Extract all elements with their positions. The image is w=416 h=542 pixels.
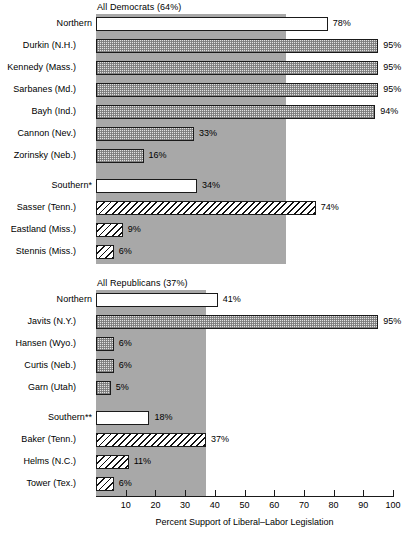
bar-value-g0s0-r4: 33% — [199, 128, 217, 139]
row-label-g1s0-r3: Garn (Utah) — [2, 382, 76, 393]
bar-g0s0-r0 — [96, 39, 378, 53]
x-axis-tick-label-30: 30 — [170, 500, 200, 511]
bar-g0s1-r2 — [96, 245, 114, 259]
row-label-g1s0-r2: Curtis (Neb.) — [2, 360, 76, 371]
bar-g0s0-r4 — [96, 127, 194, 141]
row-label-g0s0-r3: Bayh (Ind.) — [2, 106, 76, 117]
bar-g0s1-r1 — [96, 223, 123, 237]
bar-value-g0s0-r5: 16% — [149, 150, 167, 161]
bar-value-g1s1-r0: 37% — [211, 434, 229, 445]
bar-value-g0s0-r3: 94% — [380, 106, 398, 117]
bar-g1s1-r0 — [96, 433, 206, 447]
bar-value-g0s1-r0: 74% — [321, 202, 339, 213]
x-axis-tick-90 — [363, 490, 364, 496]
group-header-1: All Republicans (37%) — [97, 278, 188, 289]
x-axis-tick-label-20: 20 — [140, 500, 170, 511]
row-label-g1s0-summary: Northern — [2, 294, 92, 305]
row-label-g0s1-r2: Stennis (Miss.) — [2, 246, 76, 257]
x-axis-tick-label-10: 10 — [111, 500, 141, 511]
bar-value-g0s0-summary: 78% — [333, 18, 351, 29]
bar-value-g0s1-r2: 6% — [119, 246, 132, 257]
x-axis-tick-label-50: 50 — [230, 500, 260, 511]
bar-g1s0-r3 — [96, 381, 111, 395]
x-axis-tick-label-70: 70 — [289, 500, 319, 511]
x-axis-tick-80 — [334, 490, 335, 496]
x-axis-tick-70 — [304, 490, 305, 496]
bar-value-g0s0-r1: 95% — [383, 62, 401, 73]
bar-value-g1s1-r2: 6% — [119, 478, 132, 489]
bar-value-g0s0-r2: 95% — [383, 84, 401, 95]
bar-g1s0-summary — [96, 293, 218, 307]
bar-g1s0-r0 — [96, 315, 378, 329]
bar-g1s0-r1 — [96, 337, 114, 351]
bar-g0s0-r2 — [96, 83, 378, 97]
x-axis-title: Percent Support of Liberal–Labor Legisla… — [96, 517, 393, 528]
bar-g0s1-r0 — [96, 201, 316, 215]
x-axis-line — [96, 496, 394, 497]
row-label-g0s0-r1: Kennedy (Mass.) — [2, 62, 76, 73]
x-axis-tick-40 — [215, 490, 216, 496]
bar-g0s0-summary — [96, 17, 328, 31]
x-axis-tick-100 — [393, 490, 394, 496]
row-label-g1s1-summary: Southern** — [2, 412, 92, 423]
row-label-g0s0-r4: Cannon (Nev.) — [2, 128, 76, 139]
bar-value-g1s1-summary: 18% — [154, 412, 172, 423]
row-label-g0s0-r0: Durkin (N.H.) — [2, 40, 76, 51]
row-label-g0s0-r5: Zorinsky (Neb.) — [2, 150, 76, 161]
bar-g0s0-r5 — [96, 149, 144, 163]
x-axis-tick-60 — [274, 490, 275, 496]
x-axis-tick-10 — [126, 490, 127, 496]
bar-value-g1s0-r3: 5% — [116, 382, 129, 393]
chart-canvas: All Democrats (64%)Northern78%Durkin (N.… — [0, 0, 416, 542]
bar-value-g0s1-r1: 9% — [128, 224, 141, 235]
row-label-g1s0-r1: Hansen (Wyo.) — [2, 338, 76, 349]
bar-value-g1s0-r1: 6% — [119, 338, 132, 349]
x-axis-tick-50 — [245, 490, 246, 496]
bar-g0s0-r3 — [96, 105, 375, 119]
x-axis-tick-label-40: 40 — [200, 500, 230, 511]
row-label-g1s1-r0: Baker (Tenn.) — [2, 434, 76, 445]
x-axis-tick-label-60: 60 — [259, 500, 289, 511]
x-axis-tick-20 — [155, 490, 156, 496]
x-axis-tick-label-100: 100 — [378, 500, 408, 511]
bar-value-g1s0-r2: 6% — [119, 360, 132, 371]
bar-value-g0s0-r0: 95% — [383, 40, 401, 51]
row-label-g0s0-summary: Northern — [2, 18, 92, 29]
row-label-g0s1-r0: Sasser (Tenn.) — [2, 202, 76, 213]
x-axis-tick-label-80: 80 — [319, 500, 349, 511]
group-header-0: All Democrats (64%) — [97, 2, 181, 13]
bar-g1s1-r2 — [96, 477, 114, 491]
row-label-g0s0-r2: Sarbanes (Md.) — [2, 84, 76, 95]
x-axis-tick-30 — [185, 490, 186, 496]
row-label-g1s0-r0: Javits (N.Y.) — [2, 316, 76, 327]
row-label-g0s1-summary: Southern* — [2, 180, 92, 191]
bar-value-g0s1-summary: 34% — [202, 180, 220, 191]
bar-value-g1s0-summary: 41% — [223, 294, 241, 305]
bar-g0s0-r1 — [96, 61, 378, 75]
x-axis-tick-label-90: 90 — [348, 500, 378, 511]
row-label-g1s1-r1: Helms (N.C.) — [2, 456, 76, 467]
bar-g0s1-summary — [96, 179, 197, 193]
row-label-g0s1-r1: Eastland (Miss.) — [2, 224, 76, 235]
row-label-g1s1-r2: Tower (Tex.) — [2, 478, 76, 489]
bar-value-g1s1-r1: 11% — [134, 456, 151, 467]
bar-g1s0-r2 — [96, 359, 114, 373]
bar-value-g1s0-r0: 95% — [383, 316, 401, 327]
bar-g1s1-summary — [96, 411, 149, 425]
bar-g1s1-r1 — [96, 455, 129, 469]
